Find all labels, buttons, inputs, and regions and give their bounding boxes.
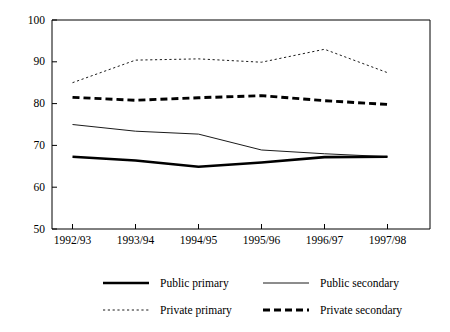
x-tick-label: 1997/98	[369, 234, 407, 246]
x-tick-label: 1996/97	[306, 234, 344, 246]
y-tick-label: 50	[34, 223, 46, 235]
x-tick-label: 1994/95	[180, 234, 218, 246]
x-tick-label: 1993/94	[117, 234, 155, 246]
legend-label-private-secondary: Private secondary	[320, 304, 402, 317]
x-tick-label: 1995/96	[243, 234, 281, 246]
y-tick-label: 100	[28, 14, 46, 26]
legend-label-public-primary: Public primary	[160, 277, 229, 290]
y-tick-label: 60	[34, 181, 46, 193]
legend-label-public-secondary: Public secondary	[320, 277, 399, 290]
line-chart-figure: 5060708090100 1992/931993/941994/951995/…	[0, 0, 450, 332]
y-tick-label: 90	[34, 55, 46, 67]
legend-label-private-primary: Private primary	[160, 304, 232, 317]
x-tick-label: 1992/93	[54, 234, 92, 246]
chart-svg: 5060708090100 1992/931993/941994/951995/…	[0, 0, 450, 332]
y-tick-label: 80	[34, 97, 46, 109]
y-tick-label: 70	[34, 139, 46, 151]
